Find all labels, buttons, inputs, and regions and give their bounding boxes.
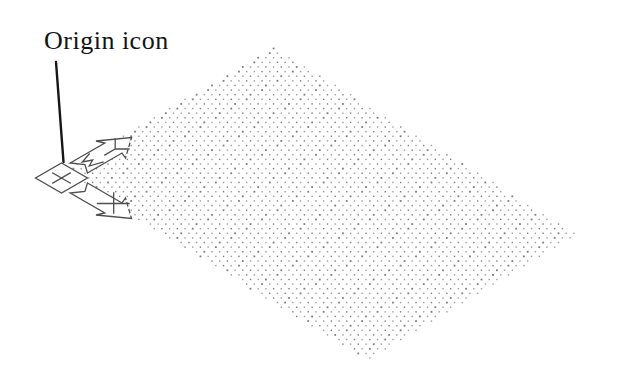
cad-viewport[interactable]: Origin icon — [0, 0, 627, 386]
ucs-origin-icon — [36, 138, 132, 219]
origin-icon-label: Origin icon — [44, 27, 169, 56]
isometric-grid-figure — [0, 0, 627, 386]
y-axis-arrow — [70, 138, 131, 174]
isometric-dot-grid — [69, 48, 575, 359]
x-axis-arrow — [70, 183, 131, 219]
leader-line — [56, 62, 64, 162]
